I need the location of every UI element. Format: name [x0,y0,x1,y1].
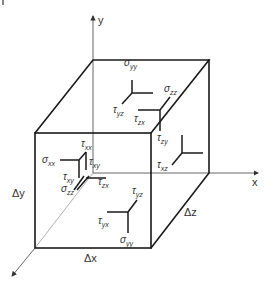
svg-text:τzy: τzy [157,132,168,146]
left-stress-element: τxx σxx τxy τxy σzz τzx [42,138,109,196]
svg-text:σyy: σyy [124,57,138,71]
svg-text:τxx: τxx [81,138,92,151]
dz-label: Δz [184,206,197,218]
right-face [151,60,209,248]
svg-text:σyy: σyy [120,234,134,248]
bottom-stress-element: τyz τyx σyy [98,185,143,248]
x-axis-label: x [252,176,258,188]
svg-text:τyz: τyz [132,185,143,199]
svg-text:σzz: σzz [164,83,178,96]
svg-text:τzx: τzx [134,113,145,126]
svg-text:τyz: τyz [113,104,124,118]
cube-edges [35,60,209,248]
svg-text:τxz: τxz [157,159,168,172]
svg-text:σzz: σzz [61,183,75,196]
svg-text:τxy: τxy [89,156,100,170]
dy-label: Δy [12,187,25,199]
axes [12,16,258,276]
svg-text:σxx: σxx [42,154,56,167]
dx-label: Δx [84,252,97,264]
y-axis-label: y [98,14,104,26]
top-stress-element: σyy τyz [113,57,153,118]
svg-text:τyx: τyx [98,215,109,229]
stress-cube-diagram: y x Δy Δx Δz σyy τyz σzz τzx τzy τxz τxx [0,0,274,286]
z-axis [12,248,35,276]
top-face [35,60,209,133]
